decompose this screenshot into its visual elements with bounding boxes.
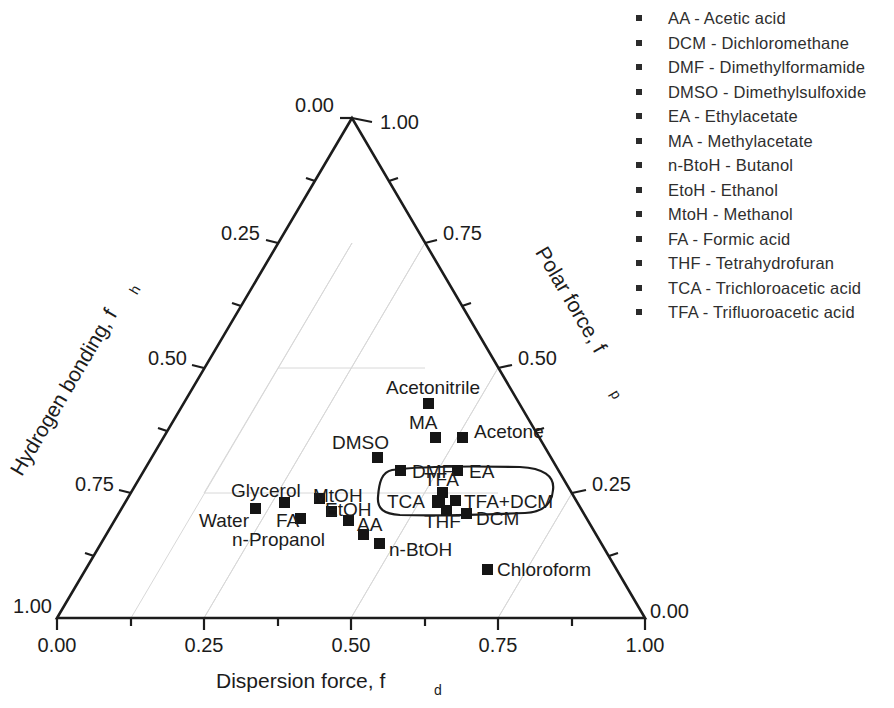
point-label-tfa: TFA [424, 469, 459, 490]
square-bullet-icon [636, 309, 642, 315]
square-bullet-icon [636, 187, 642, 193]
legend-item-label: n-BtoH - Butanol [668, 153, 793, 178]
square-bullet-icon [636, 138, 642, 144]
point-label-acetonitrile: Acetonitrile [386, 377, 480, 398]
data-point-labels: Acetonitrile MA Acetone DMSO DMF EA TFA … [199, 377, 591, 580]
left-tick-label: 1.00 [13, 595, 52, 617]
point-label-n-btoh: n-BtOH [389, 539, 452, 560]
legend-item: TCA - Trichloroacetic acid [636, 276, 894, 301]
square-bullet-icon [636, 236, 642, 242]
point-label-fa: FA [276, 510, 300, 531]
ternary-chart-figure: 0.00 0.25 0.50 0.75 1.00 0.00 0.25 0.50 … [0, 0, 894, 708]
point-label-dmso: DMSO [332, 432, 389, 453]
bottom-axis-tick-labels: 0.00 0.25 0.50 0.75 1.00 [38, 634, 665, 656]
legend-item-label: EtoH - Ethanol [668, 178, 778, 203]
left-tick-label: 0.75 [75, 473, 114, 495]
square-bullet-icon [636, 64, 642, 70]
bottom-tick-label: 0.00 [38, 634, 77, 656]
axis-tick-marks [57, 118, 645, 630]
data-point-marker [372, 452, 383, 463]
data-point-marker [482, 564, 493, 575]
data-point-marker [450, 495, 461, 506]
bottom-axis-title-text: Dispersion force, f [216, 669, 385, 692]
data-point-marker [250, 503, 261, 514]
legend-item: TFA - Trifluoroacetic acid [636, 300, 894, 325]
legend-item-label: THF - Tetrahydrofuran [668, 251, 834, 276]
square-bullet-icon [636, 113, 642, 119]
legend-item-label: DCM - Dichloromethane [668, 31, 849, 56]
legend-item: EA - Ethylacetate [636, 104, 894, 129]
left-axis-title-text: Hydrogen bonding, f [5, 305, 121, 480]
point-label-acetone: Acetone [474, 421, 544, 442]
right-tick-label: 0.25 [592, 473, 631, 495]
legend-item: AA - Acetic acid [636, 6, 894, 31]
square-bullet-icon [636, 15, 642, 21]
left-tick-label: 0.50 [148, 347, 187, 369]
square-bullet-icon [636, 211, 642, 217]
legend-item: MA - Methylacetate [636, 129, 894, 154]
right-axis-title-text: Polar force, f [531, 242, 611, 356]
point-label-thf: THF [424, 511, 461, 532]
bottom-axis-title: Dispersion force, f d [216, 669, 442, 698]
legend-item: DMSO - Dimethylsulfoxide [636, 80, 894, 105]
point-label-n-propanol: n-Propanol [232, 529, 325, 550]
legend-item-label: MA - Methylacetate [668, 129, 813, 154]
bottom-tick-label: 0.25 [185, 634, 224, 656]
point-label-ma: MA [409, 412, 438, 433]
legend-item-label: TCA - Trichloroacetic acid [668, 276, 861, 301]
point-label-water: Water [199, 510, 250, 531]
point-label-glycerol: Glycerol [231, 480, 301, 501]
left-tick-label: 0.25 [221, 222, 260, 244]
legend-item: DCM - Dichloromethane [636, 31, 894, 56]
square-bullet-icon [636, 260, 642, 266]
point-label-ea: EA [469, 461, 495, 482]
legend-item: EtoH - Ethanol [636, 178, 894, 203]
bottom-axis-title-subscript: d [434, 682, 442, 698]
legend-item: THF - Tetrahydrofuran [636, 251, 894, 276]
data-point-marker [374, 538, 385, 549]
point-label-tca: TCA [387, 491, 425, 512]
legend-item: DMF - Dimethylformamide [636, 55, 894, 80]
right-tick-label: 0.00 [650, 600, 689, 622]
legend-item-label: FA - Formic acid [668, 227, 790, 252]
square-bullet-icon [636, 162, 642, 168]
left-axis-title: Hydrogen bonding, f h [5, 276, 143, 483]
legend-item-label: AA - Acetic acid [668, 6, 786, 31]
bottom-tick-label: 1.00 [626, 634, 665, 656]
right-axis-title: Polar force, f p [526, 242, 636, 401]
data-point-marker [423, 398, 434, 409]
data-point-marker [457, 432, 468, 443]
legend: AA - Acetic acid DCM - Dichloromethane D… [636, 6, 894, 325]
square-bullet-icon [636, 285, 642, 291]
legend-item-label: DMSO - Dimethylsulfoxide [668, 80, 866, 105]
right-tick-label: 0.50 [518, 347, 557, 369]
square-bullet-icon [636, 40, 642, 46]
legend-item: FA - Formic acid [636, 227, 894, 252]
point-label-chloroform: Chloroform [497, 559, 591, 580]
left-tick-label: 0.00 [295, 94, 334, 116]
right-tick-label: 1.00 [380, 111, 419, 133]
square-bullet-icon [636, 89, 642, 95]
right-axis-title-subscript: p [607, 387, 625, 402]
data-point-marker [430, 432, 441, 443]
data-point-marker [395, 465, 406, 476]
legend-item: n-BtoH - Butanol [636, 153, 894, 178]
right-tick-label: 0.75 [443, 222, 482, 244]
legend-item-label: TFA - Trifluoroacetic acid [668, 300, 855, 325]
legend-item-label: EA - Ethylacetate [668, 104, 798, 129]
legend-item-label: DMF - Dimethylformamide [668, 55, 865, 80]
left-axis-title-subscript: h [126, 282, 144, 297]
bottom-tick-label: 0.75 [479, 634, 518, 656]
legend-item: MtoH - Methanol [636, 202, 894, 227]
bottom-tick-label: 0.50 [332, 634, 371, 656]
legend-item-label: MtoH - Methanol [668, 202, 793, 227]
point-label-dcm: DCM [476, 508, 519, 529]
point-label-aa: AA [357, 514, 383, 535]
